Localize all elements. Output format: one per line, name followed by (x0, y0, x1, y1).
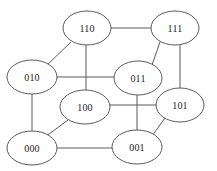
node-label-000: 000 (24, 143, 40, 154)
graph-node-000[interactable]: 000 (7, 131, 57, 165)
hypercube-diagram: 110111010011100101000001 (0, 0, 217, 171)
graph-node-011[interactable]: 011 (114, 61, 162, 95)
node-label-010: 010 (24, 72, 40, 83)
node-label-001: 001 (129, 142, 145, 153)
graph-node-110[interactable]: 110 (63, 11, 111, 45)
graph-edge-111-011 (152, 42, 160, 65)
node-layer: 110111010011100101000001 (7, 11, 204, 165)
graph-node-111[interactable]: 111 (151, 11, 199, 45)
graph-edge-100-000 (45, 120, 68, 137)
graph-node-001[interactable]: 001 (112, 130, 162, 164)
node-label-100: 100 (77, 102, 93, 113)
graph-node-100[interactable]: 100 (60, 90, 110, 124)
graph-edge-101-001 (152, 118, 165, 136)
node-label-011: 011 (130, 73, 145, 84)
graph-node-101[interactable]: 101 (156, 88, 204, 122)
node-label-111: 111 (168, 23, 183, 34)
graph-canvas: 110111010011100101000001 (0, 0, 217, 171)
graph-edge-110-010 (48, 42, 71, 64)
graph-node-010[interactable]: 010 (7, 60, 57, 94)
node-label-110: 110 (79, 23, 94, 34)
node-label-101: 101 (172, 100, 188, 111)
